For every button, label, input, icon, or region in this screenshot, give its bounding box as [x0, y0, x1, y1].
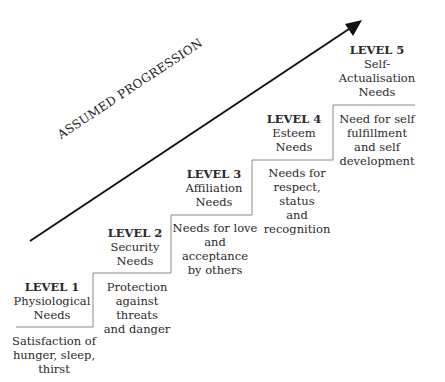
- level-5-title: LEVEL 5 Self- Actualisation Needs: [336, 43, 418, 99]
- desc-line: and recognition: [254, 208, 340, 236]
- need-name: Needs: [336, 85, 418, 99]
- need-name: Needs: [96, 254, 174, 268]
- need-name: Security: [96, 240, 174, 254]
- level-2-description: Protection against threats and danger: [94, 280, 180, 336]
- level-label: LEVEL 2: [96, 226, 174, 240]
- level-label: LEVEL 5: [336, 43, 418, 57]
- level-1-title: LEVEL 1 Physiological Needs: [12, 280, 92, 322]
- level-label: LEVEL 3: [175, 167, 253, 181]
- need-name: Affiliation: [175, 181, 253, 195]
- need-name: Esteem: [255, 126, 333, 140]
- need-name: Needs: [175, 195, 253, 209]
- level-label: LEVEL 4: [255, 112, 333, 126]
- desc-line: Need for self: [334, 112, 420, 126]
- desc-line: thirst: [10, 362, 98, 376]
- level-2-title: LEVEL 2 Security Needs: [96, 226, 174, 268]
- desc-line: and acceptance: [172, 235, 258, 263]
- need-name: Self-: [336, 57, 418, 71]
- level-3-title: LEVEL 3 Affiliation Needs: [175, 167, 253, 209]
- level-3-description: Needs for love and acceptance by others: [172, 221, 258, 277]
- desc-line: against threats: [94, 294, 180, 322]
- need-name: Physiological: [12, 294, 92, 308]
- desc-line: and self: [334, 140, 420, 154]
- desc-line: Protection: [94, 280, 180, 294]
- level-label: LEVEL 1: [12, 280, 92, 294]
- desc-line: Satisfaction of: [10, 334, 98, 348]
- desc-line: and danger: [94, 322, 180, 336]
- level-4-description: Needs for respect, status and recognitio…: [254, 166, 340, 236]
- desc-line: fulfillment: [334, 126, 420, 140]
- need-name: Actualisation: [336, 71, 418, 85]
- desc-line: Needs for: [254, 166, 340, 180]
- desc-line: respect, status: [254, 180, 340, 208]
- desc-line: Needs for love: [172, 221, 258, 235]
- desc-line: development: [334, 154, 420, 168]
- need-name: Needs: [255, 140, 333, 154]
- level-5-description: Need for self fulfillment and self devel…: [334, 112, 420, 168]
- level-1-description: Satisfaction of hunger, sleep, thirst: [10, 334, 98, 376]
- level-4-title: LEVEL 4 Esteem Needs: [255, 112, 333, 154]
- arrow-head-icon: [345, 20, 362, 36]
- desc-line: by others: [172, 263, 258, 277]
- need-name: Needs: [12, 308, 92, 322]
- desc-line: hunger, sleep,: [10, 348, 98, 362]
